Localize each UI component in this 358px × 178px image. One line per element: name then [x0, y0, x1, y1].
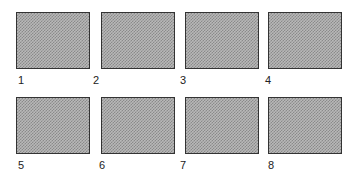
panel-label-8: 8 — [268, 160, 274, 171]
panel-2 — [101, 12, 175, 69]
panel-label-2: 2 — [93, 75, 99, 86]
panel-6 — [101, 97, 175, 154]
panel-label-7: 7 — [180, 160, 186, 171]
panel-4 — [268, 12, 342, 69]
panel-5 — [16, 97, 90, 154]
panel-label-5: 5 — [18, 160, 24, 171]
panel-label-6: 6 — [99, 160, 105, 171]
panel-label-3: 3 — [180, 75, 186, 86]
panel-label-4: 4 — [265, 75, 271, 86]
panel-8 — [268, 97, 342, 154]
panel-7 — [185, 97, 259, 154]
panel-label-1: 1 — [18, 75, 24, 86]
panel-3 — [185, 12, 259, 69]
panel-1 — [16, 12, 90, 69]
